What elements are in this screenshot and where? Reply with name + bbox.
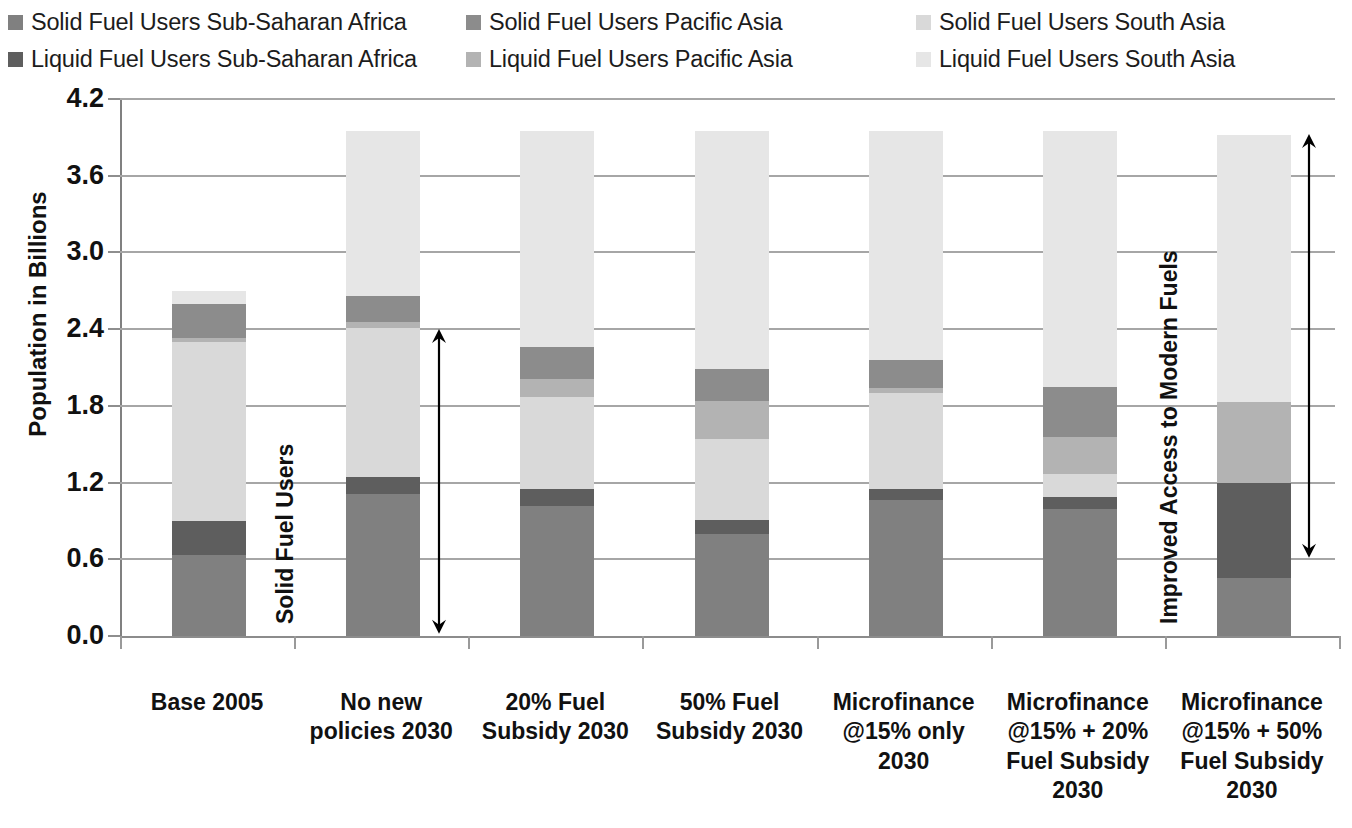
bar-stack[interactable] xyxy=(869,131,943,636)
x-axis-category-line: Microfinance xyxy=(824,688,984,717)
bar-segment[interactable] xyxy=(1043,509,1117,636)
legend-swatch-icon xyxy=(8,52,23,67)
y-axis-tick-mark xyxy=(108,405,120,407)
bar-stack[interactable] xyxy=(520,131,594,636)
bar-segment[interactable] xyxy=(1043,131,1117,387)
x-axis-category-line: Fuel Subsidy xyxy=(998,747,1158,776)
x-axis-tick-mark xyxy=(642,636,644,649)
bar-segment[interactable] xyxy=(346,477,420,494)
x-axis-category-line: Subsidy 2030 xyxy=(475,717,635,746)
legend-item-liquid-fuel-users-sub-saharan-africa[interactable]: Liquid Fuel Users Sub-Saharan Africa xyxy=(8,48,417,72)
x-axis-tick-mark xyxy=(1339,636,1341,649)
x-axis-category-line: Microfinance xyxy=(998,688,1158,717)
bar-segment[interactable] xyxy=(869,360,943,388)
legend-swatch-icon xyxy=(466,15,481,30)
x-axis-category-line: No new xyxy=(301,688,461,717)
legend-item-solid-fuel-users-sub-saharan-africa[interactable]: Solid Fuel Users Sub-Saharan Africa xyxy=(8,11,407,35)
legend-item-solid-fuel-users-south-asia[interactable]: Solid Fuel Users South Asia xyxy=(916,11,1225,35)
bar-segment[interactable] xyxy=(520,397,594,489)
legend-item-label: Solid Fuel Users South Asia xyxy=(939,11,1225,35)
legend-swatch-icon xyxy=(8,15,23,30)
x-axis-line xyxy=(120,636,1339,638)
x-axis-tick-mark xyxy=(468,636,470,649)
x-axis-category-line: policies 2030 xyxy=(301,717,461,746)
bar-stack[interactable] xyxy=(346,131,420,636)
bar-segment[interactable] xyxy=(1217,135,1291,402)
x-axis-category-label: Microfinance@15% only2030 xyxy=(824,688,984,776)
legend-item-liquid-fuel-users-south-asia[interactable]: Liquid Fuel Users South Asia xyxy=(916,48,1235,72)
solid-fuel-users-arrow-icon xyxy=(426,327,452,638)
bar-stack[interactable] xyxy=(1043,131,1117,636)
improved-access-arrow-icon xyxy=(1296,132,1322,562)
legend-swatch-icon xyxy=(466,52,481,67)
x-axis-tick-mark xyxy=(120,636,122,649)
x-axis-category-label: Microfinance@15% + 50%Fuel Subsidy2030 xyxy=(1172,688,1332,806)
bar-segment[interactable] xyxy=(346,296,420,322)
x-axis-category-line: @15% only xyxy=(824,717,984,746)
x-axis-category-line: 20% Fuel xyxy=(475,688,635,717)
bar-segment[interactable] xyxy=(172,304,246,339)
bar-stack[interactable] xyxy=(695,131,769,636)
bar-segment[interactable] xyxy=(695,534,769,636)
bar-segment[interactable] xyxy=(346,131,420,296)
x-axis-category-label: Base 2005 xyxy=(127,688,287,717)
bar-segment[interactable] xyxy=(520,489,594,506)
bar-segment[interactable] xyxy=(520,131,594,347)
chart-legend: Solid Fuel Users Sub-Saharan Africa Liqu… xyxy=(0,0,1352,86)
bar-segment[interactable] xyxy=(520,506,594,636)
y-axis-tick-mark xyxy=(108,251,120,253)
y-axis-line xyxy=(120,99,122,636)
y-axis-tick-label: 0.0 xyxy=(14,622,104,649)
plot-area: Solid Fuel UsersImproved Access to Moder… xyxy=(120,99,1335,636)
bar-segment[interactable] xyxy=(695,131,769,369)
bar-segment[interactable] xyxy=(869,489,943,501)
x-axis-category-line: 2030 xyxy=(998,776,1158,805)
legend-item-label: Liquid Fuel Users South Asia xyxy=(939,48,1235,72)
y-axis-tick-mark xyxy=(108,98,120,100)
legend-item-solid-fuel-users-pacific-asia[interactable]: Solid Fuel Users Pacific Asia xyxy=(466,11,782,35)
bar-segment[interactable] xyxy=(869,500,943,636)
bar-segment[interactable] xyxy=(172,521,246,556)
bar-segment[interactable] xyxy=(1217,402,1291,483)
legend-item-liquid-fuel-users-pacific-asia[interactable]: Liquid Fuel Users Pacific Asia xyxy=(466,48,793,72)
legend-swatch-icon xyxy=(916,52,931,67)
bar-segment[interactable] xyxy=(1043,437,1117,474)
y-axis-tick-label: 4.2 xyxy=(14,85,104,112)
bar-segment[interactable] xyxy=(520,379,594,397)
x-axis-category-line: Fuel Subsidy xyxy=(1172,747,1332,776)
bar-segment[interactable] xyxy=(1043,497,1117,510)
legend-item-label: Solid Fuel Users Sub-Saharan Africa xyxy=(31,11,407,35)
x-axis-category-line: 2030 xyxy=(1172,776,1332,805)
bar-segment[interactable] xyxy=(1217,578,1291,636)
bar-segment[interactable] xyxy=(695,439,769,520)
x-axis-tick-mark xyxy=(817,636,819,649)
bar-segment[interactable] xyxy=(520,347,594,379)
bar-segment[interactable] xyxy=(1043,474,1117,497)
x-axis-category-label: 50% FuelSubsidy 2030 xyxy=(650,688,810,747)
bar-segment[interactable] xyxy=(172,555,246,636)
bar-segment[interactable] xyxy=(172,342,246,521)
bar-segment[interactable] xyxy=(695,369,769,401)
bar-segment[interactable] xyxy=(1217,483,1291,579)
bar-segment[interactable] xyxy=(695,401,769,439)
y-axis-tick-mark xyxy=(108,175,120,177)
legend-swatch-icon xyxy=(916,15,931,30)
y-axis-tick-mark xyxy=(108,482,120,484)
bar-segment[interactable] xyxy=(869,393,943,489)
bar-segment[interactable] xyxy=(1043,387,1117,437)
grid-line xyxy=(120,98,1335,100)
x-axis-tick-mark xyxy=(1165,636,1167,649)
x-axis-tick-mark xyxy=(294,636,296,649)
bar-segment[interactable] xyxy=(346,328,420,478)
x-axis-category-line: @15% + 50% xyxy=(1172,717,1332,746)
bar-segment[interactable] xyxy=(346,494,420,636)
bar-segment[interactable] xyxy=(695,520,769,534)
legend-item-label: Liquid Fuel Users Sub-Saharan Africa xyxy=(31,48,417,72)
y-axis-tick-label: 1.8 xyxy=(14,392,104,419)
bar-stack[interactable] xyxy=(1217,135,1291,636)
x-axis-tick-mark xyxy=(991,636,993,649)
bar-stack[interactable] xyxy=(172,291,246,636)
bar-segment[interactable] xyxy=(869,131,943,360)
x-axis-category-label: No newpolicies 2030 xyxy=(301,688,461,747)
bar-segment[interactable] xyxy=(172,291,246,304)
